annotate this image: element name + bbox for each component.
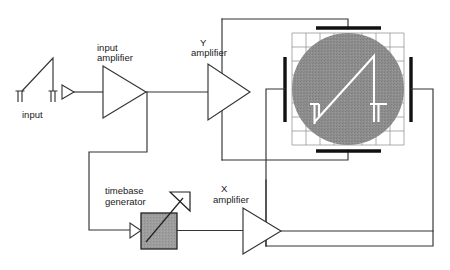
timebase-label-line1: timebase [105,185,144,196]
y-amplifier-label-line2: amplifier [191,47,227,58]
input-source-group: input [16,58,75,120]
timebase-generator-group: timebase generator [105,185,190,249]
input-waveform-ramp [22,58,53,91]
input-label: input [22,109,43,120]
wire-trigger-to-timebase [89,92,147,230]
y-amplifier-triangle [208,64,250,120]
x-amplifier-label-line2: amplifier [213,194,249,205]
timebase-variable-arrow-head [170,192,190,211]
input-amplifier-group: input amplifier [97,42,146,118]
input-terminal-right [49,91,58,102]
y-amplifier-group: Y amplifier [191,19,250,160]
x-amplifier-label-line1: X [221,183,228,194]
input-amplifier-triangle [103,66,146,118]
input-amplifier-label-line2: amplifier [97,52,133,63]
input-terminal-left [16,91,25,102]
timebase-input-triangle [130,223,141,238]
input-buffer-triangle [62,85,74,99]
timebase-generator-box [141,213,177,249]
diagram-canvas: input input amplifier Y amplifier [0,0,450,270]
x-amplifier-group: X amplifier [213,180,281,254]
crt-screen-group [285,28,411,151]
wire-left-plate-to-bottom-bus [266,89,285,246]
x-amplifier-triangle [243,208,281,254]
oscilloscope-block-diagram: input input amplifier Y amplifier [0,0,450,270]
timebase-label-line2: generator [105,196,146,207]
